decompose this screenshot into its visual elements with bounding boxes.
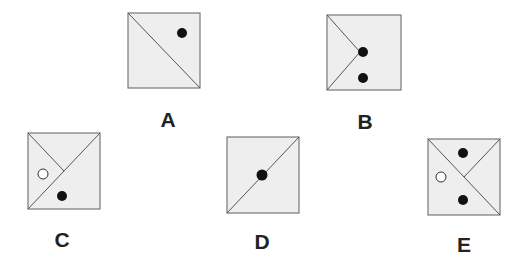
option-e-figure[interactable]	[427, 138, 503, 218]
black-dot-icon	[458, 195, 468, 205]
option-b-figure[interactable]	[326, 14, 404, 92]
option-b-label: B	[350, 110, 380, 134]
black-dot-icon	[358, 73, 368, 83]
option-c-label: C	[47, 228, 77, 252]
option-a-label: A	[153, 108, 183, 132]
black-dot-icon	[177, 28, 187, 38]
black-dot-icon	[358, 47, 368, 57]
option-e-square-icon	[427, 138, 503, 218]
white-dot-icon	[436, 172, 446, 182]
option-a-figure[interactable]	[127, 12, 203, 90]
white-dot-icon	[38, 169, 48, 179]
option-d-label: D	[247, 230, 277, 254]
black-dot-icon	[57, 191, 67, 201]
option-c-square-icon	[27, 132, 103, 212]
black-dot-icon	[257, 170, 268, 181]
option-d-figure[interactable]	[226, 136, 302, 216]
black-dot-icon	[458, 148, 468, 158]
option-a-square-icon	[127, 12, 203, 90]
option-d-square-icon	[226, 136, 302, 216]
option-e-label: E	[449, 233, 479, 257]
option-c-figure[interactable]	[27, 132, 103, 212]
option-b-square-icon	[326, 14, 404, 92]
